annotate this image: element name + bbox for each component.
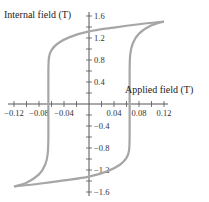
y-tick-label: −0.4: [94, 121, 110, 131]
x-tick-label: −0.04: [54, 108, 74, 118]
x-tick-label: 0.12: [157, 108, 172, 118]
y-tick-label: 1.6: [94, 11, 105, 21]
x-tick-label: −0.12: [4, 108, 24, 118]
axes: [8, 12, 168, 196]
y-tick-label: 0.8: [94, 55, 105, 65]
y-tick-label: 0.4: [94, 77, 105, 87]
y-tick-label: 1.2: [94, 33, 105, 43]
x-tick-label: −0.08: [29, 108, 49, 118]
x-tick-label: 0.08: [132, 108, 147, 118]
hysteresis-chart: −0.12−0.08−0.040.040.080.12 1.61.20.80.4…: [0, 0, 209, 202]
x-axis-title: Applied field (T): [125, 84, 193, 96]
y-tick-label: −1.6: [94, 187, 109, 197]
y-axis-title: Internal field (T): [4, 9, 71, 21]
y-tick-label: −0.8: [94, 143, 109, 153]
x-tick-label: 0.04: [107, 108, 123, 118]
